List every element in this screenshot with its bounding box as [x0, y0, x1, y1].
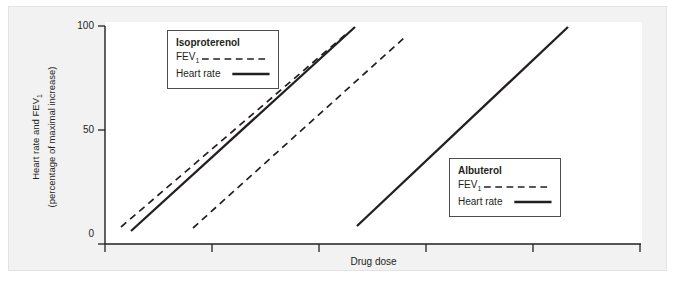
dashed-line-swatch-icon	[484, 183, 552, 191]
x-axis-title: Drug dose	[105, 256, 642, 267]
legend-albuterol-fev1-label: FEV1	[458, 179, 481, 195]
legend-albuterol-title: Albuterol	[458, 164, 552, 177]
legend-isoproterenol: Isoproterenol FEV1 Heart rate	[167, 30, 279, 89]
y-axis-title-line2: (percentage of maximal increase)	[46, 66, 57, 207]
y-axis-title-line1: Heart rate and FEV	[30, 98, 41, 180]
solid-line-swatch-icon	[505, 198, 552, 206]
legend-isoproterenol-fev1-label: FEV1	[176, 51, 199, 67]
legend-isoproterenol-heart-rate-label: Heart rate	[176, 68, 220, 80]
legend-isoproterenol-title: Isoproterenol	[176, 36, 270, 49]
figure-container: 100 50 0 Heart rate and FEV1 (percentage…	[0, 0, 675, 289]
solid-line-swatch-icon	[223, 70, 270, 78]
legend-albuterol-row-heart-rate: Heart rate	[458, 194, 552, 209]
y-tick-label-100: 100	[62, 21, 94, 31]
y-axis-title-subscript: 1	[36, 94, 43, 98]
dashed-line-swatch-icon	[202, 55, 270, 63]
y-axis-title: Heart rate and FEV1 (percentage of maxim…	[30, 32, 58, 242]
legend-isoproterenol-row-fev1: FEV1	[176, 51, 270, 66]
legend-albuterol: Albuterol FEV1 Heart rate	[449, 158, 561, 217]
y-tick-label-50: 50	[62, 125, 94, 135]
legend-isoproterenol-row-heart-rate: Heart rate	[176, 66, 270, 81]
plot-svg	[0, 0, 675, 289]
legend-albuterol-heart-rate-label: Heart rate	[458, 196, 502, 208]
legend-albuterol-row-fev1: FEV1	[458, 179, 552, 194]
y-tick-label-0: 0	[62, 229, 94, 239]
